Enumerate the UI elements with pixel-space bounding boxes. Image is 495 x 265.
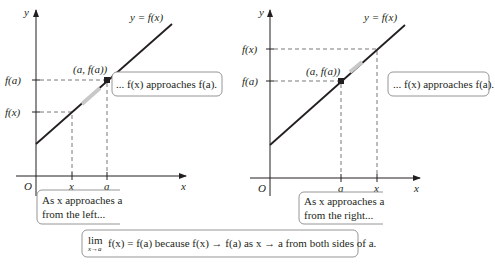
right-fa-guide	[274, 81, 341, 174]
right-curve-label: y = f(x)	[363, 11, 397, 24]
right-curve-approach-arrow	[350, 62, 362, 72]
summary-lim-subscript: x→a	[88, 245, 102, 254]
right-x-axis-label: x	[413, 182, 419, 194]
right-callout-top-text: ... f(x) approaches f(a).	[393, 77, 494, 91]
right-point-label: (a, f(a))	[306, 65, 341, 78]
left-callout-bottom-line1: As x approaches a	[42, 193, 122, 207]
right-point-a-fa	[338, 78, 344, 84]
right-y-axis-label: y	[258, 6, 264, 18]
left-ytick-fa: f(a)	[5, 74, 21, 87]
left-curve-label: y = f(x)	[129, 11, 163, 24]
left-y-axis-label: y	[23, 6, 29, 18]
left-ytick-fx: f(x)	[5, 106, 21, 119]
left-fx-guide	[40, 112, 72, 172]
left-callout-top-text: ... f(x) approaches f(a).	[116, 77, 217, 91]
left-origin-label: O	[24, 180, 32, 192]
left-point-a-fa	[104, 77, 110, 83]
left-fa-guide	[40, 80, 107, 172]
left-panel: y x O y = f(x) f(a) f(x) x a (a, f(a))	[5, 6, 222, 224]
left-point-label: (a, f(a))	[73, 63, 108, 76]
right-panel: y x O y = f(x) f(x) f(a) a x (a, f(a))	[242, 6, 489, 224]
right-callout-bottom-line2: from the right...	[304, 208, 373, 222]
right-curve	[270, 25, 405, 145]
summary-text: f(x) = f(a) because f(x) → f(a) as x → a…	[108, 236, 376, 250]
left-callout-bottom-line2: from the left...	[42, 207, 105, 221]
continuity-diagram: y x O y = f(x) f(a) f(x) x a (a, f(a)) y…	[0, 0, 495, 265]
left-curve-approach-arrow	[82, 88, 100, 104]
right-ytick-fa: f(a)	[242, 75, 258, 88]
right-callout-bottom-line1: As x approaches a	[304, 194, 384, 208]
right-origin-label: O	[258, 182, 266, 194]
right-ytick-fx: f(x)	[242, 43, 258, 56]
left-x-axis-label: x	[180, 180, 186, 192]
